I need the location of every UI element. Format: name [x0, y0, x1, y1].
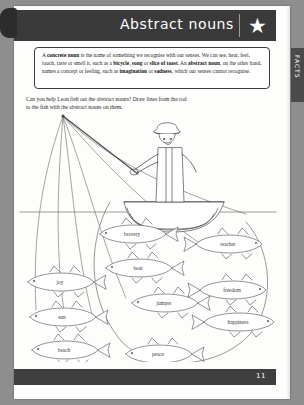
fish-boat — [106, 252, 184, 283]
fishing-illustration: bravery teacher boat joy freedom jumper … — [14, 110, 290, 362]
fish-beach — [32, 334, 110, 362]
fact-line2-g: . — [178, 60, 179, 66]
fish-label-bravery: bravery — [124, 231, 141, 237]
fact-line1-c: is the name of something we recognise wi… — [79, 52, 217, 58]
footer-band: 11 — [14, 369, 276, 385]
example-sadness: sadness — [154, 68, 171, 74]
spiral-binding — [0, 8, 17, 38]
fact-line4-d: , which our senses cannot recognise. — [172, 68, 251, 74]
side-tab-facts: FACTS — [291, 48, 304, 102]
example-song: song — [132, 60, 143, 66]
fish-label-freedom: freedom — [223, 287, 242, 293]
fish-label-happiness: happiness — [228, 319, 249, 325]
fact-box: A concrete noun is the name of something… — [34, 47, 270, 89]
star-icon: ★ — [246, 15, 268, 37]
fact-text: A concrete noun is the name of something… — [42, 52, 263, 75]
worksheet-page: Abstract nouns ★ FACTS A concrete noun i… — [0, 0, 304, 405]
fact-line3-a: An — [180, 60, 188, 66]
page-number: 11 — [256, 372, 266, 380]
side-tab-label: FACTS — [294, 55, 301, 79]
fish-label-boat: boat — [133, 265, 143, 271]
example-slice-of-toast: slice of toast — [150, 60, 178, 66]
instructions: Can you help Leon fish out the abstract … — [26, 95, 236, 111]
example-imagination: imagination — [120, 68, 148, 74]
fish-label-sun: sun — [58, 314, 66, 320]
fish-sun — [30, 301, 108, 332]
fish-label-joy: joy — [56, 279, 64, 285]
fish-label-teacher: teacher — [220, 241, 236, 247]
header-band: Abstract nouns ★ — [14, 10, 276, 41]
fish-label-jumper: jumper — [155, 300, 171, 306]
header-divider — [239, 14, 240, 37]
rod-tip — [61, 114, 64, 117]
fish-label-peace: peace — [152, 351, 165, 357]
fish-peace — [126, 338, 204, 362]
fishing-rod — [63, 116, 138, 174]
page-title: Abstract nouns — [120, 16, 234, 32]
example-bicycle: bicycle — [113, 60, 129, 66]
term-abstract-noun: abstract noun — [188, 60, 220, 66]
fisherman-leon — [130, 123, 196, 202]
fish-label-beach: beach — [58, 347, 71, 353]
instructions-line-2: to the fish with the abstract nouns on t… — [26, 103, 236, 111]
fact-line2-e: or — [142, 60, 149, 66]
instructions-line-1: Can you help Leon fish out the abstract … — [26, 95, 236, 103]
term-concrete-noun: concrete noun — [47, 52, 79, 58]
